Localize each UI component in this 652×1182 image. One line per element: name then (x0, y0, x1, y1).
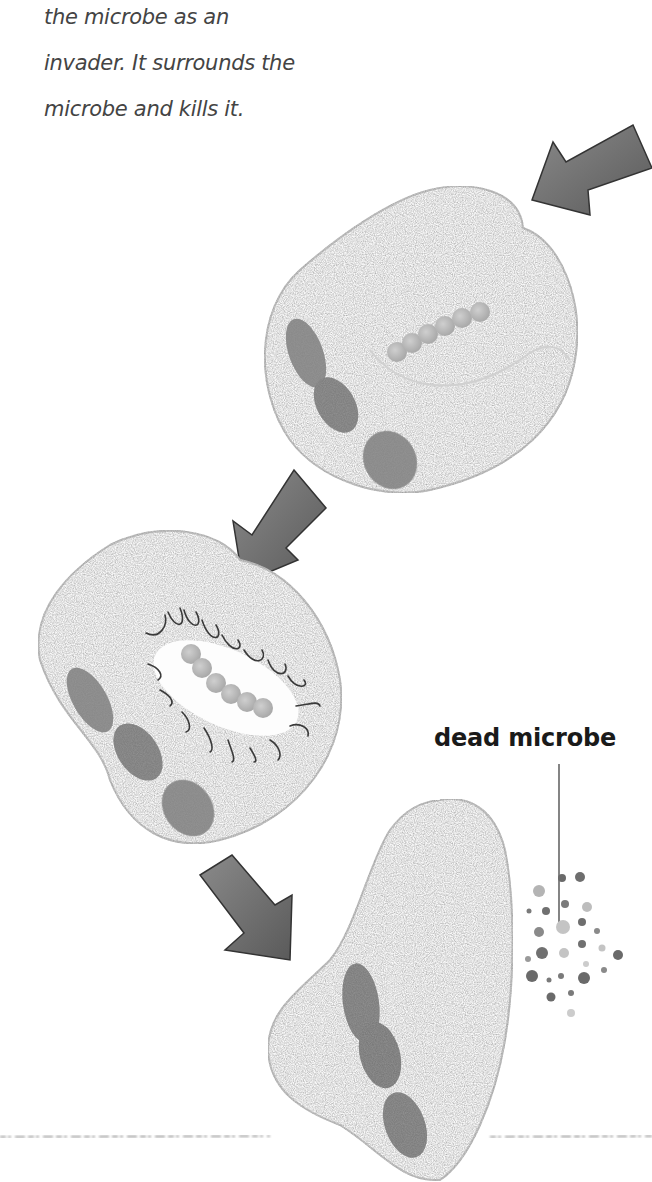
phagocytosis-diagram (0, 0, 652, 1182)
phagocyte-cell-2 (38, 531, 341, 847)
dead-microbe-debris (525, 872, 623, 1017)
ground-line (0, 1136, 652, 1137)
phagocyte-cell-1 (265, 186, 577, 499)
phagocyte-cell-3 (268, 799, 513, 1180)
arrow-icon-1 (532, 125, 652, 215)
dead-microbe-label: dead microbe (434, 724, 616, 752)
arrow-icon-3 (200, 855, 292, 960)
